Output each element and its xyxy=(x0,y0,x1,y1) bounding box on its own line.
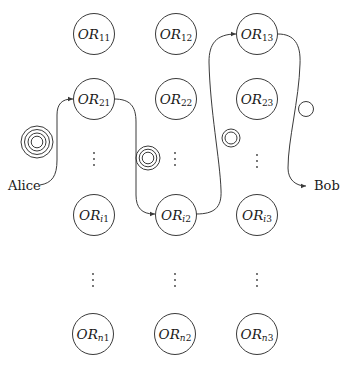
svg-text:OR11: OR11 xyxy=(78,26,111,43)
ellipsis-col2-lower xyxy=(174,273,176,287)
ellipsis-col3-upper xyxy=(256,154,258,168)
svg-text:OR22: OR22 xyxy=(160,91,193,108)
svg-text:ORn1: ORn1 xyxy=(77,326,110,343)
router-label: OR xyxy=(241,326,262,342)
router-node-or22: OR22 xyxy=(156,79,197,120)
path-or13-to-bob xyxy=(278,34,306,186)
router-node-or21: OR21 xyxy=(74,79,115,120)
router-node-or11: OR11 xyxy=(74,14,115,55)
onion-4-layers-icon xyxy=(21,126,53,158)
onion-2-layers-icon xyxy=(222,129,240,147)
destination-label-bob: Bob xyxy=(314,178,340,193)
router-label: OR xyxy=(77,326,98,342)
router-label: OR xyxy=(161,207,182,223)
router-label: OR xyxy=(242,207,263,223)
router-label: OR xyxy=(241,91,262,107)
router-label: OR xyxy=(160,91,181,107)
svg-text:ORn2: ORn2 xyxy=(159,326,192,343)
svg-text:OR13: OR13 xyxy=(241,26,274,43)
path-alice-to-or21 xyxy=(40,99,73,185)
svg-text:ORi2: ORi2 xyxy=(161,207,191,224)
path-ori2-to-or13 xyxy=(196,34,236,214)
svg-text:OR21: OR21 xyxy=(78,91,111,108)
router-node-orn2: ORn2 xyxy=(155,314,196,355)
svg-text:ORn3: ORn3 xyxy=(241,326,274,343)
router-label: OR xyxy=(78,26,99,42)
ellipsis-col3-lower xyxy=(256,273,258,287)
router-node-orn1: ORn1 xyxy=(73,314,114,355)
router-node-or23: OR23 xyxy=(237,79,278,120)
router-node-or12: OR12 xyxy=(156,14,197,55)
router-node-ori3: ORi3 xyxy=(237,195,278,236)
router-label: OR xyxy=(79,207,100,223)
source-label-alice: Alice xyxy=(7,178,41,193)
router-node-ori1: ORi1 xyxy=(74,195,115,236)
ellipsis-col1-lower xyxy=(92,273,94,287)
router-label: OR xyxy=(78,91,99,107)
svg-text:OR12: OR12 xyxy=(160,26,193,43)
router-node-orn3: ORn3 xyxy=(237,314,278,355)
ellipsis-col1-upper xyxy=(93,152,95,166)
onion-1-layer-icon xyxy=(299,102,314,117)
svg-text:OR23: OR23 xyxy=(241,91,274,108)
svg-text:ORi1: ORi1 xyxy=(79,207,109,224)
path-or21-to-ori2 xyxy=(114,99,155,214)
router-node-ori2: ORi2 xyxy=(156,195,197,236)
router-label: OR xyxy=(159,326,180,342)
ellipsis-col2-upper xyxy=(174,152,176,166)
router-label: OR xyxy=(241,26,262,42)
onion-3-layers-icon xyxy=(136,146,160,170)
router-node-or13: OR13 xyxy=(237,14,278,55)
onion-routing-diagram: OR11 OR12 OR13 OR21 OR22 OR23 ORi1 ORi2 xyxy=(0,0,344,367)
router-label: OR xyxy=(160,26,181,42)
svg-text:ORi3: ORi3 xyxy=(242,207,272,224)
